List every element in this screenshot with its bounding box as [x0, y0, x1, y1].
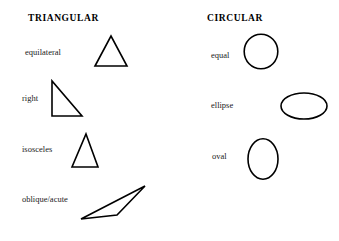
isosceles-triangle-shape: [70, 133, 100, 169]
label-oval: oval: [212, 151, 227, 161]
label-right: right: [22, 93, 38, 103]
column-triangular: TRIANGULAR equilateral right isosceles o…: [0, 0, 170, 241]
column-circular: CIRCULAR equal ellipse oval: [170, 0, 339, 241]
label-isosceles: isosceles: [22, 144, 52, 154]
label-ellipse: ellipse: [211, 100, 233, 110]
shape-classification-diagram: TRIANGULAR equilateral right isosceles o…: [0, 0, 339, 241]
heading-circular: CIRCULAR: [207, 13, 263, 23]
circle-equal-shape: [243, 33, 279, 70]
oblique-acute-triangle-shape: [79, 184, 147, 221]
oval-tall-shape: [247, 138, 279, 180]
equilateral-triangle-shape: [94, 34, 128, 68]
ellipse-wide-shape: [280, 92, 328, 120]
heading-triangular: TRIANGULAR: [28, 13, 99, 23]
label-equal: equal: [211, 50, 229, 60]
label-oblique-acute: oblique/acute: [22, 194, 68, 204]
right-triangle-shape: [51, 80, 85, 118]
label-equilateral: equilateral: [25, 47, 61, 57]
